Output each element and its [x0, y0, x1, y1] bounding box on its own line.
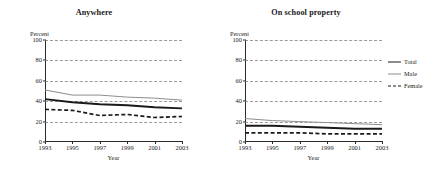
x-tick-label-2001: 2001 — [348, 145, 361, 151]
x-tick-label-1995: 1995 — [66, 145, 79, 151]
legend-label-female: Female — [404, 83, 423, 89]
series-line-total-school — [245, 126, 382, 129]
legend-label-male: Male — [404, 71, 417, 77]
x-tick-label-1999: 1999 — [121, 145, 134, 151]
x-tick-label-1995: 1995 — [266, 145, 279, 151]
legend-item-total: Total — [388, 57, 440, 67]
y-tick-label-80: 80 — [36, 57, 42, 63]
chart-title-school: On school property — [220, 8, 392, 17]
series-line-female-school — [245, 133, 382, 134]
legend-item-female: Female — [388, 81, 440, 91]
figure-container: Anywhere Percent 020406080100 1993199519… — [0, 0, 440, 178]
x-tick-label-2003: 2003 — [376, 145, 389, 151]
y-tick-label-100: 100 — [232, 37, 242, 43]
y-tick-label-60: 60 — [36, 78, 42, 84]
y-tick-label-20: 20 — [36, 118, 42, 124]
legend-line-male-icon — [388, 71, 401, 78]
data-lines-school — [245, 40, 383, 143]
y-tick-label-40: 40 — [236, 98, 242, 104]
plot-area-anywhere: 020406080100 199319951997199920012003 Ye… — [45, 40, 182, 142]
y-tick-label-80: 80 — [236, 57, 242, 63]
chart-title-anywhere: Anywhere — [8, 8, 180, 17]
chart-legend: Total Male Female — [388, 57, 440, 93]
data-lines-anywhere — [45, 40, 183, 143]
y-tick-label-100: 100 — [32, 37, 42, 43]
series-line-total-anywhere — [45, 99, 182, 108]
x-tick-label-2001: 2001 — [148, 145, 161, 151]
series-line-female-anywhere — [45, 109, 182, 117]
legend-label-total: Total — [404, 59, 417, 65]
legend-line-female-icon — [388, 83, 401, 90]
x-tick-label-1993: 1993 — [39, 145, 52, 151]
series-line-male-anywhere — [45, 90, 182, 100]
series-line-male-school — [245, 119, 382, 125]
y-tick-label-20: 20 — [236, 118, 242, 124]
x-tick-label-2003: 2003 — [176, 145, 189, 151]
x-axis-title-school: Year — [245, 154, 382, 161]
plot-area-school: 020406080100 199319951997199920012003 Ye… — [245, 40, 382, 142]
x-tick-label-1999: 1999 — [321, 145, 334, 151]
x-tick-label-1997: 1997 — [293, 145, 306, 151]
y-tick-label-60: 60 — [236, 78, 242, 84]
y-tick-label-40: 40 — [36, 98, 42, 104]
legend-item-male: Male — [388, 69, 440, 79]
x-tick-label-1993: 1993 — [239, 145, 252, 151]
x-axis-title-anywhere: Year — [45, 154, 182, 161]
x-tick-label-1997: 1997 — [93, 145, 106, 151]
legend-line-total-icon — [388, 59, 401, 66]
